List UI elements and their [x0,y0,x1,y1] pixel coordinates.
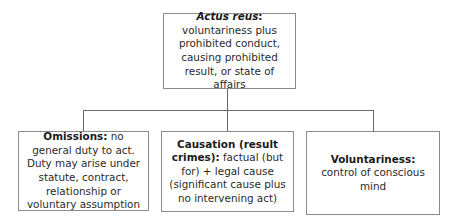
connector-to-voluntariness [373,110,374,131]
node-actus-reus-colon: : [258,10,262,22]
connector-horizontal [83,110,374,111]
node-voluntariness: Voluntariness: control of conscious mind [306,131,440,215]
connector-to-omissions [83,110,84,131]
node-voluntariness-text: Voluntariness: control of conscious mind [312,153,434,194]
node-actus-reus: Actus reus: voluntariness plus prohibite… [163,13,296,89]
node-causation-text: Causation (result crimes): factual (but … [167,138,288,206]
node-causation: Causation (result crimes): factual (but … [161,131,294,212]
node-omissions-text: Omissions: no general duty to act. Duty … [24,130,143,212]
node-voluntariness-title: Voluntariness: [331,153,416,165]
node-omissions-title: Omissions: [43,130,107,142]
node-omissions: Omissions: no general duty to act. Duty … [18,131,149,211]
actus-reus-diagram: Actus reus: voluntariness plus prohibite… [0,0,458,220]
node-voluntariness-body: control of conscious mind [321,166,425,192]
node-actus-reus-text: Actus reus: voluntariness plus prohibite… [169,10,290,92]
node-actus-reus-title: Actus reus [197,10,259,22]
node-actus-reus-body: voluntariness plus prohibited conduct, c… [179,24,280,90]
